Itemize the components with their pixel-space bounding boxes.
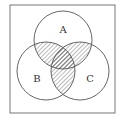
label-a: A xyxy=(58,24,67,35)
venn-diagram: A B C xyxy=(0,0,121,121)
label-b: B xyxy=(33,73,40,84)
label-c: C xyxy=(86,73,94,84)
